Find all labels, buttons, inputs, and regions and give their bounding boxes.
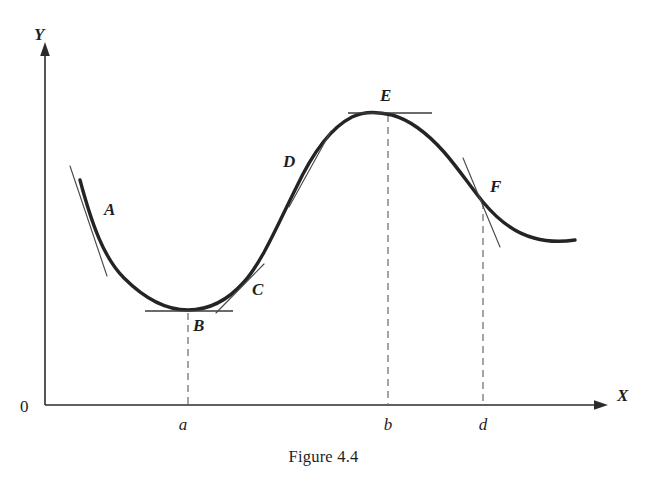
tangent-line-d bbox=[289, 131, 331, 207]
origin-label: 0 bbox=[20, 397, 29, 416]
point-label-a: A bbox=[103, 200, 115, 219]
point-label-e: E bbox=[379, 86, 391, 105]
x-tick-label-a: a bbox=[179, 415, 188, 434]
point-label-f: F bbox=[489, 177, 502, 196]
function-curve bbox=[80, 112, 575, 310]
tangent-line-a bbox=[70, 166, 107, 276]
x-tick-label-b: b bbox=[384, 415, 393, 434]
x-axis-arrowhead bbox=[594, 400, 608, 410]
point-label-b: B bbox=[192, 316, 204, 335]
graph-canvas: Y X 0 a b d A B C D E F bbox=[0, 0, 647, 490]
point-label-d: D bbox=[282, 152, 295, 171]
tangent-line-f bbox=[463, 158, 500, 247]
x-axis-label: X bbox=[616, 386, 629, 405]
figure-caption: Figure 4.4 bbox=[0, 447, 647, 467]
point-label-c: C bbox=[252, 280, 264, 299]
x-tick-label-d: d bbox=[479, 415, 488, 434]
y-axis-label: Y bbox=[34, 25, 46, 44]
y-axis-arrowhead bbox=[40, 42, 50, 56]
figure-container: Y X 0 a b d A B C D E F Figure 4.4 bbox=[0, 0, 647, 490]
